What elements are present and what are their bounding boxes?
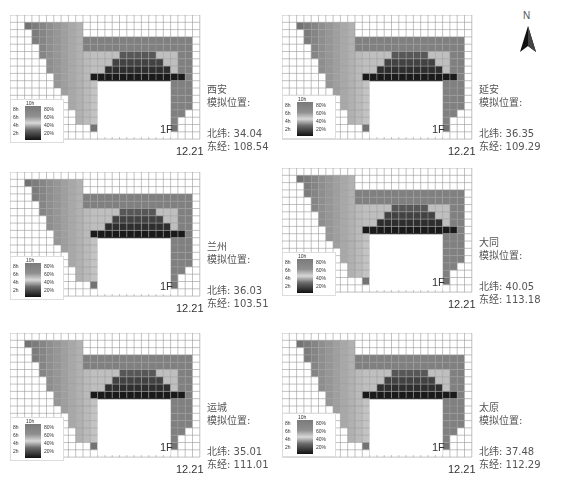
latitude-label: 北纬:: [479, 281, 502, 292]
legend-tick: 6h: [285, 110, 291, 116]
legend-tick: 80%: [44, 424, 54, 430]
floor-label: 1F: [160, 123, 173, 135]
legend-tick: 40%: [316, 436, 326, 442]
longitude-value: 109.29: [506, 141, 541, 152]
legend-tick: 60%: [316, 110, 326, 116]
city-name: 运城: [207, 401, 269, 414]
legend-tick: 2h: [285, 126, 291, 132]
legend-gradient: [25, 424, 41, 458]
legend-tick: 40%: [44, 122, 54, 128]
longitude-value: 113.18: [506, 294, 541, 305]
floor-label: 1F: [160, 280, 173, 292]
legend-tick: 4h: [285, 118, 291, 124]
legend-tick: 80%: [316, 259, 326, 265]
location-info: 运城 模拟位置: 北纬: 35.01 东经: 111.01: [207, 401, 269, 471]
city-name: 大同: [479, 236, 541, 249]
sunlight-panel: 10h 8h 6h 4h 2h 80% 60% 40% 20% 1F 12.21…: [282, 15, 557, 165]
floor-label: 1F: [432, 276, 445, 288]
legend-tick: 60%: [316, 428, 326, 434]
floor-label: 1F: [432, 123, 445, 135]
longitude-value: 108.54: [234, 141, 269, 152]
legend-tick: 20%: [316, 283, 326, 289]
sim-label: 模拟位置:: [207, 96, 269, 109]
latitude-label: 北纬:: [207, 128, 230, 139]
legend-tick: 20%: [316, 126, 326, 132]
latitude: 北纬: 36.03: [207, 284, 269, 297]
latitude: 北纬: 37.48: [479, 445, 541, 458]
floor-label: 1F: [160, 441, 173, 453]
legend-tick: 2h: [13, 448, 19, 454]
latitude-value: 34.04: [234, 128, 263, 139]
legend-tick: 40%: [316, 275, 326, 281]
latitude-label: 北纬:: [479, 446, 502, 457]
legend-tick: 2h: [13, 287, 19, 293]
latitude-label: 北纬:: [479, 128, 502, 139]
legend-gradient: [25, 263, 41, 297]
floor-label: 1F: [432, 441, 445, 453]
legend-gradient: [297, 420, 313, 454]
sunlight-panel: 10h 8h 6h 4h 2h 80% 60% 40% 20% 1F 12.21…: [10, 15, 285, 165]
longitude: 东经: 109.29: [479, 140, 541, 153]
legend-gradient: [297, 259, 313, 293]
legend-tick: 4h: [13, 279, 19, 285]
legend: 10h 8h 6h 4h 2h 80% 60% 40% 20%: [282, 95, 336, 139]
location-info: 兰州 模拟位置: 北纬: 36.03 东经: 103.51: [207, 240, 269, 310]
legend: 10h 8h 6h 4h 2h 80% 60% 40% 20%: [282, 252, 336, 296]
latitude-value: 36.35: [506, 128, 535, 139]
legend-tick: 6h: [13, 432, 19, 438]
latitude: 北纬: 36.35: [479, 127, 541, 140]
latitude: 北纬: 40.05: [479, 280, 541, 293]
location-info: 大同 模拟位置: 北纬: 40.05 东经: 113.18: [479, 236, 541, 306]
longitude-label: 东经:: [479, 459, 502, 470]
latitude-label: 北纬:: [207, 446, 230, 457]
sunlight-panel: 10h 8h 6h 4h 2h 80% 60% 40% 20% 1F 12.21…: [10, 333, 285, 483]
legend-tick: 60%: [44, 271, 54, 277]
legend: 10h 8h 6h 4h 2h 80% 60% 40% 20%: [10, 256, 64, 300]
longitude-label: 东经:: [207, 459, 230, 470]
legend-tick: 4h: [285, 275, 291, 281]
legend-tick: 8h: [13, 263, 19, 269]
date-label: 12.21: [175, 302, 205, 314]
longitude-label: 东经:: [207, 298, 230, 309]
legend-tick: 6h: [285, 267, 291, 273]
legend-tick: 80%: [44, 106, 54, 112]
legend-tick: 20%: [44, 130, 54, 136]
latitude-value: 37.48: [506, 446, 535, 457]
longitude: 东经: 108.54: [207, 140, 269, 153]
legend-tick: 8h: [285, 102, 291, 108]
sim-label: 模拟位置:: [207, 414, 269, 427]
date-label: 12.21: [175, 463, 205, 475]
legend-tick: 60%: [316, 267, 326, 273]
date-label: 12.21: [447, 145, 477, 157]
legend-tick: 20%: [44, 448, 54, 454]
legend-tick: 8h: [285, 420, 291, 426]
longitude: 东经: 103.51: [207, 297, 269, 310]
sim-label: 模拟位置:: [479, 249, 541, 262]
location-info: 延安 模拟位置: 北纬: 36.35 东经: 109.29: [479, 83, 541, 153]
legend-tick: 20%: [316, 444, 326, 450]
latitude-value: 36.03: [234, 285, 263, 296]
longitude-label: 东经:: [207, 141, 230, 152]
legend-tick: 2h: [285, 444, 291, 450]
sim-label: 模拟位置:: [479, 414, 541, 427]
longitude-value: 111.01: [234, 459, 269, 470]
legend-tick: 6h: [13, 271, 19, 277]
city-name: 太原: [479, 401, 541, 414]
legend-tick: 4h: [285, 436, 291, 442]
longitude: 东经: 111.01: [207, 458, 269, 471]
latitude: 北纬: 35.01: [207, 445, 269, 458]
longitude: 东经: 112.29: [479, 458, 541, 471]
location-info: 太原 模拟位置: 北纬: 37.48 东经: 112.29: [479, 401, 541, 471]
location-info: 西安 模拟位置: 北纬: 34.04 东经: 108.54: [207, 83, 269, 153]
longitude-label: 东经:: [479, 294, 502, 305]
legend-tick: 60%: [44, 432, 54, 438]
latitude: 北纬: 34.04: [207, 127, 269, 140]
sunlight-panel: 10h 8h 6h 4h 2h 80% 60% 40% 20% 1F 12.21…: [282, 333, 557, 483]
longitude-value: 103.51: [234, 298, 269, 309]
legend-tick: 4h: [13, 122, 19, 128]
legend-gradient: [25, 106, 41, 140]
longitude: 东经: 113.18: [479, 293, 541, 306]
legend-tick: 40%: [44, 279, 54, 285]
legend-tick: 40%: [316, 118, 326, 124]
legend-tick: 2h: [13, 130, 19, 136]
